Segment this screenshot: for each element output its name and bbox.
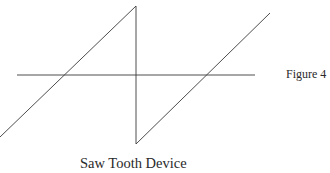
figure-caption: Saw Tooth Device <box>80 155 187 172</box>
sawtooth-diagram <box>0 0 330 173</box>
sawtooth-figure: Figure 4 Saw Tooth Device <box>0 0 330 173</box>
figure-number-label: Figure 4 <box>286 67 326 82</box>
